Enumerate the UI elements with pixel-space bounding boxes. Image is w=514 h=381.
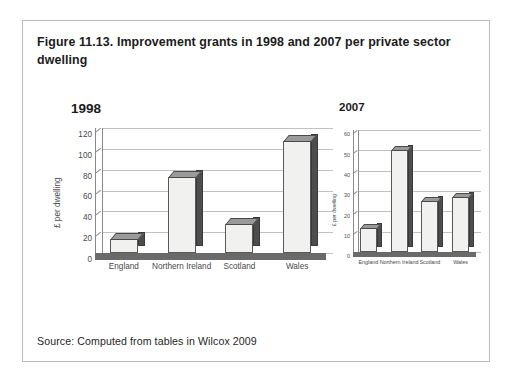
bar-scotland (421, 135, 438, 252)
y-axis-tick-label: 30 (336, 192, 350, 198)
x-axis-tick-label: Wales (438, 260, 483, 266)
bar-side-face (311, 134, 318, 247)
y-axis-tick-label: 20 (336, 213, 350, 219)
y-axis-tick-label: 80 (72, 172, 92, 181)
plot-area (353, 135, 481, 257)
gridline (102, 128, 333, 129)
bar-northern-ireland (391, 135, 408, 252)
bar-side-face (196, 170, 203, 246)
y-axis-tick-label: 0 (336, 253, 350, 259)
bar-northern-ireland (168, 135, 196, 253)
y-axis-line (102, 128, 103, 253)
chart-1998: 1998£ per dwelling020406080100120England… (47, 101, 327, 301)
chart-2007: 2007£ per dwelling0102030405060EnglandNo… (329, 101, 485, 301)
plot-floor (353, 252, 476, 257)
source-note: Source: Computed from tables in Wilcox 2… (37, 335, 257, 347)
bar-england (110, 135, 138, 253)
bar-front-face (452, 197, 469, 252)
bar-front-face (110, 239, 138, 253)
x-axis-tick-label: Wales (261, 263, 333, 272)
y-axis-tick-label: 10 (336, 233, 350, 239)
bar-side-face (438, 196, 443, 247)
bar-wales (452, 135, 469, 252)
figure-container: Figure 11.13. Improvement grants in 1998… (22, 20, 490, 362)
y-axis-tick-label: 20 (72, 234, 92, 243)
bar-side-face (469, 192, 474, 247)
y-axis-tick-label: 60 (72, 192, 92, 201)
chart-year-label: 2007 (339, 101, 365, 113)
figure-title: Figure 11.13. Improvement grants in 1998… (37, 33, 467, 69)
bar-front-face (168, 177, 196, 253)
chart-year-label: 1998 (71, 101, 101, 116)
bar-scotland (225, 135, 253, 253)
bar-england (360, 135, 377, 252)
y-axis-title: £ per dwelling (53, 177, 62, 228)
plot-floor (95, 253, 326, 260)
bar-wales (283, 135, 311, 253)
y-axis-tick-label: 120 (72, 130, 92, 139)
bar-front-face (283, 141, 311, 254)
bar-front-face (421, 201, 438, 252)
gridline (358, 130, 481, 131)
y-axis-title: £ per dwelling (331, 194, 337, 226)
plot-area (95, 135, 333, 260)
y-axis-tick-label: 40 (72, 213, 92, 222)
y-axis-tick-label: 50 (336, 152, 350, 158)
y-axis-tick-label: 100 (72, 151, 92, 160)
y-axis-tick-label: 40 (336, 172, 350, 178)
bar-front-face (225, 224, 253, 253)
y-axis-line (358, 130, 359, 252)
y-axis-tick-label: 60 (336, 131, 350, 137)
bar-top-face (168, 171, 202, 178)
bar-front-face (360, 228, 377, 252)
bar-top-face (283, 135, 317, 142)
bar-side-face (408, 145, 413, 247)
bar-top-face (360, 224, 381, 229)
bar-front-face (391, 150, 408, 252)
